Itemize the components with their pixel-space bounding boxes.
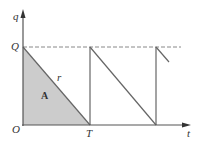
area-a-label: A [41, 91, 48, 101]
diagram-canvas [0, 0, 202, 143]
slope-r-label: r [57, 72, 61, 83]
y-axis-label: q [13, 11, 19, 22]
period-t-label: T [86, 128, 92, 139]
origin-label: O [12, 124, 20, 135]
q-max-label: Q [11, 41, 19, 52]
x-axis-label: t [187, 128, 190, 139]
third-decline-line [156, 47, 169, 62]
second-decline-line [90, 47, 156, 125]
y-axis-arrow-icon [21, 9, 26, 18]
sawtooth-diagram: q Q O T t r A [0, 0, 202, 143]
